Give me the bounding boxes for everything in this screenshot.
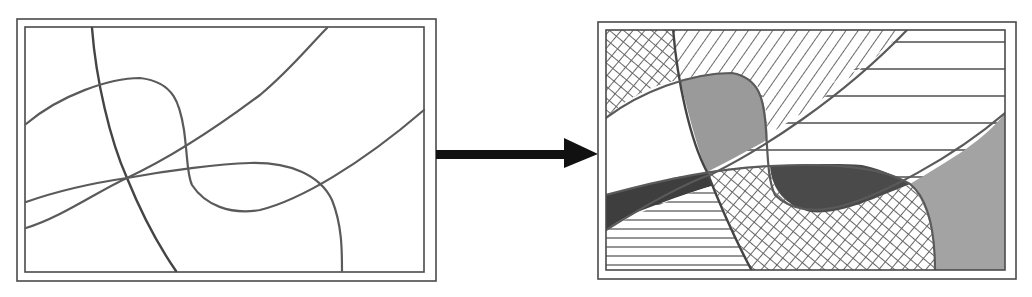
arrow-head-icon: [564, 138, 598, 168]
left-inner-frame: [25, 27, 424, 272]
left-curve-diagonal: [26, 28, 327, 228]
left-curve-vertical: [92, 28, 176, 271]
left-curve-arc: [26, 163, 342, 271]
diagram-canvas: [0, 0, 1032, 297]
left-curve-s: [26, 78, 424, 211]
right-panel: [598, 22, 1016, 279]
right-regions: [606, 28, 1005, 271]
arrow-shaft: [436, 150, 566, 159]
left-panel: [17, 19, 436, 281]
transform-arrow: [436, 138, 598, 168]
